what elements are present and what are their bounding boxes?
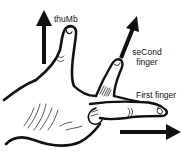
second-finger-label-line1: seCond (130, 47, 164, 57)
hand-rule-diagram (0, 0, 181, 160)
second-finger-label-line2: finger (130, 57, 164, 67)
hand-illustration (4, 26, 167, 145)
second-finger-label: seCond finger (130, 47, 164, 67)
first-finger-label: First finger (136, 90, 176, 100)
thumb-arrow-icon (36, 10, 52, 64)
thumb-label: thuMb (54, 14, 78, 24)
first-finger-arrow-icon (120, 124, 181, 140)
